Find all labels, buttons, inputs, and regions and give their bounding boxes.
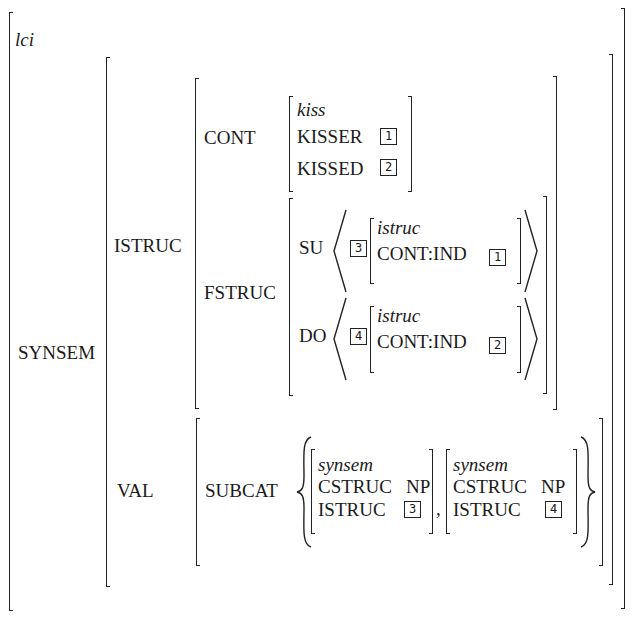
val-label: VAL	[117, 481, 154, 500]
cont-bracket-right	[408, 96, 412, 192]
subcat-item2-type: synsem	[453, 455, 508, 474]
subcat-item2-bracket-right	[573, 449, 577, 534]
subcat-separator: ,	[436, 499, 441, 518]
tag-4: 4	[545, 501, 562, 518]
subcat-item2-cstruc-value: NP	[541, 477, 565, 496]
su-bracket-right	[517, 218, 521, 284]
fstruc-bracket-left	[289, 198, 293, 396]
subcat-item1-bracket-left	[311, 449, 315, 534]
kisser-label: KISSER	[297, 127, 362, 146]
cont-type-kiss: kiss	[297, 100, 326, 119]
fstruc-label: FSTRUC	[204, 283, 276, 302]
tag-2: 2	[380, 159, 397, 176]
subcat-label: SUBCAT	[205, 481, 278, 500]
subcat-item2-cstruc-label: CSTRUC	[453, 477, 527, 496]
istruc-label: ISTRUC	[114, 236, 182, 255]
kissed-label: KISSED	[297, 159, 364, 178]
set-brace-open-icon	[296, 436, 312, 548]
val-bracket-right	[599, 418, 603, 566]
su-angle-open-icon	[333, 210, 347, 292]
su-feature: CONT:IND	[377, 244, 467, 263]
synsem-bracket-right	[609, 54, 613, 585]
do-angle-close-icon	[524, 298, 538, 380]
val-bracket-left	[196, 418, 200, 566]
istruc-bracket-left	[195, 78, 199, 409]
synsem-bracket-left	[106, 57, 110, 587]
tag-4: 4	[350, 328, 367, 345]
subcat-item1-bracket-right	[429, 449, 433, 534]
tag-3: 3	[404, 501, 421, 518]
do-bracket-right	[517, 306, 521, 373]
cont-label: CONT	[204, 128, 256, 147]
tag-2: 2	[489, 337, 506, 354]
subcat-item2-istruc-label: ISTRUC	[453, 500, 521, 519]
subcat-item1-cstruc-value: NP	[406, 477, 430, 496]
outer-bracket-left	[9, 12, 13, 611]
subcat-item2-bracket-left	[446, 449, 450, 534]
su-angle-close-icon	[524, 210, 538, 292]
su-type-istruc: istruc	[377, 218, 420, 237]
subcat-item1-type: synsem	[318, 455, 373, 474]
su-bracket-left	[370, 218, 374, 284]
do-type-istruc: istruc	[377, 306, 420, 325]
tag-1: 1	[489, 249, 506, 266]
su-label: SU	[299, 238, 323, 257]
do-angle-open-icon	[333, 298, 347, 380]
fstruc-bracket-right	[543, 196, 547, 394]
do-bracket-left	[370, 306, 374, 373]
tag-1: 1	[380, 128, 397, 145]
tag-3: 3	[350, 240, 367, 257]
subcat-item1-istruc-label: ISTRUC	[318, 500, 386, 519]
subcat-item1-cstruc-label: CSTRUC	[318, 477, 392, 496]
istruc-bracket-right	[553, 76, 557, 410]
cont-bracket-left	[289, 96, 293, 192]
outer-bracket-right	[621, 8, 625, 609]
do-feature: CONT:IND	[377, 332, 467, 351]
set-brace-close-icon	[580, 436, 596, 548]
do-label: DO	[299, 326, 326, 345]
avm-type-lci: lci	[15, 30, 34, 49]
synsem-label: SYNSEM	[18, 343, 95, 362]
